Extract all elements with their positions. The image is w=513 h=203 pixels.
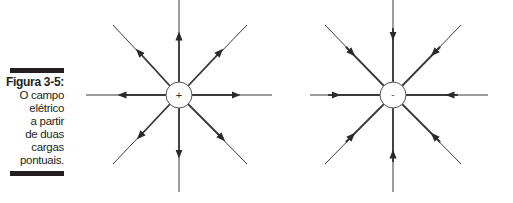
field-diagram: + - — [0, 0, 513, 203]
negative-sign: - — [391, 89, 394, 100]
positive-sign: + — [176, 89, 182, 101]
